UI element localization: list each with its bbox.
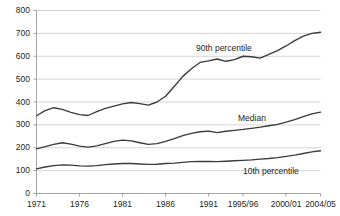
series-label-10th-percentile: 10th percentile [243,167,299,176]
data-series-lines [37,32,321,169]
y-axis-tick-label: 800 [0,6,30,15]
series-line-90th-percentile [37,32,321,116]
y-axis-tick-label: 700 [0,29,30,38]
y-axis-tick-label: 400 [0,98,30,107]
y-axis-tick-label: 600 [0,52,30,61]
y-axis-tick-label: 0 [0,189,30,198]
x-axis-tick-label: 2004/05 [291,200,340,209]
series-label-median: Median [238,114,266,123]
y-axis-tick-label: 300 [0,120,30,129]
y-axis-tick-label: 100 [0,166,30,175]
series-line-median [37,112,321,149]
y-axis-tick-label: 500 [0,75,30,84]
y-axis-tick-label: 200 [0,143,30,152]
series-label-90th-percentile: 90th percentile [196,44,252,53]
